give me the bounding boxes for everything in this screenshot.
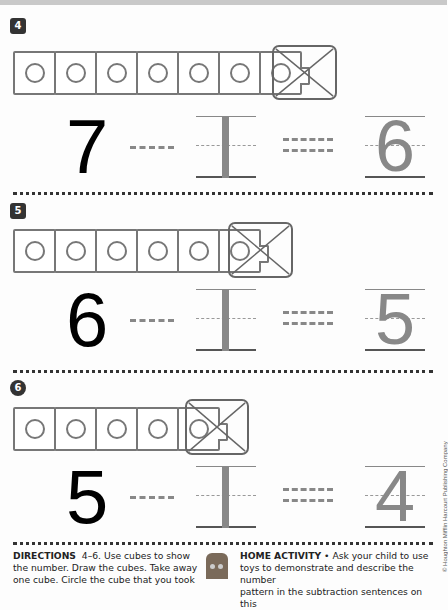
problem-5-badge: 5 — [10, 203, 26, 219]
difference-write-box[interactable]: 6 — [365, 116, 425, 178]
directions-range: 4–6. — [82, 550, 101, 561]
subtrahend-write-box[interactable] — [196, 116, 256, 178]
cube-hole-icon — [107, 63, 127, 83]
cube-hole-icon — [66, 63, 86, 83]
cube-hole-icon — [189, 241, 209, 261]
directions-line-1: Use cubes to show — [104, 550, 190, 561]
cube-hole-icon — [66, 241, 86, 261]
equals-sign — [283, 488, 333, 502]
home-line-3: pattern in the subtraction sentences on … — [240, 586, 422, 609]
problem-5-equation: 6 5 — [0, 287, 447, 353]
circled-cube-cross-out — [272, 45, 337, 100]
copyright-notice: © Houghton Mifflin Harcourt Publishing C… — [436, 440, 446, 578]
traced-subtrahend-1 — [222, 289, 229, 351]
cube — [136, 51, 179, 95]
home-line-2: toys to demonstrate and describe the num… — [240, 562, 414, 585]
problem-4-equation: 7 6 — [0, 114, 447, 180]
circled-cube-cross-out — [185, 399, 249, 455]
problem-6-badge: 6 — [10, 380, 26, 396]
cube — [177, 229, 220, 273]
minus-sign — [130, 146, 174, 149]
minus-sign — [130, 496, 174, 499]
problem-4-cube-train — [13, 51, 300, 95]
subtrahend-write-box[interactable] — [196, 289, 256, 351]
cube — [218, 51, 261, 95]
minuend: 5 — [66, 464, 108, 530]
cube — [13, 229, 56, 273]
cube — [54, 229, 97, 273]
circled-cube-cross-out — [228, 222, 293, 278]
copyright-text: © Houghton Mifflin Harcourt Publishing C… — [442, 434, 448, 572]
home-activity-label: HOME ACTIVITY — [240, 550, 321, 561]
mascot-eye — [210, 564, 215, 569]
cube-hole-icon — [25, 419, 45, 439]
directions-line-3: one cube. Circle the cube that you took — [13, 574, 195, 585]
minus-sign — [130, 319, 174, 322]
cube — [13, 407, 56, 451]
traced-difference: 6 — [365, 110, 425, 182]
section-divider — [13, 192, 433, 195]
section-divider — [13, 370, 433, 373]
equals-sign — [283, 138, 333, 152]
difference-write-box[interactable]: 4 — [365, 466, 425, 528]
mascot-eye — [218, 564, 223, 569]
cube — [13, 51, 56, 95]
cube — [136, 229, 179, 273]
cube-hole-icon — [25, 63, 45, 83]
cube-hole-icon — [25, 241, 45, 261]
traced-difference: 5 — [365, 283, 425, 355]
home-activity-text: HOME ACTIVITY • Ask your child to use to… — [240, 550, 440, 610]
difference-write-box[interactable]: 5 — [365, 289, 425, 351]
cube — [54, 407, 97, 451]
directions-line-2: the number. Draw the cubes. Take away — [13, 562, 197, 573]
minuend: 7 — [66, 114, 108, 180]
cube — [95, 407, 138, 451]
cube-hole-icon — [107, 419, 127, 439]
cube-hole-icon — [148, 241, 168, 261]
cube-hole-icon — [148, 63, 168, 83]
section-divider — [13, 542, 433, 545]
cube — [177, 51, 220, 95]
home-line-1: Ask your child to use — [332, 550, 428, 561]
cross-out-icon — [230, 224, 291, 276]
cube — [136, 407, 179, 451]
problem-6-equation: 5 4 — [0, 464, 447, 530]
subtrahend-write-box[interactable] — [196, 466, 256, 528]
cube-hole-icon — [148, 419, 168, 439]
traced-subtrahend-1 — [222, 466, 229, 528]
cube-hole-icon — [66, 419, 86, 439]
cube-hole-icon — [189, 63, 209, 83]
page-top-edge — [0, 0, 447, 5]
directions-text: DIRECTIONS 4–6. Use cubes to show the nu… — [13, 550, 203, 586]
bullet: • — [324, 550, 329, 561]
cube-hole-icon — [107, 241, 127, 261]
cube-hole-icon — [230, 63, 250, 83]
equals-sign — [283, 311, 333, 325]
cube — [95, 51, 138, 95]
directions-label: DIRECTIONS — [13, 550, 76, 561]
mascot-house-icon — [206, 553, 228, 579]
minuend: 6 — [66, 287, 108, 353]
traced-difference: 4 — [365, 460, 425, 532]
cross-out-icon — [274, 47, 335, 98]
problem-5-cube-train — [13, 229, 259, 273]
traced-subtrahend-1 — [222, 116, 229, 178]
cube — [95, 229, 138, 273]
cross-out-icon — [187, 401, 247, 453]
cube — [54, 51, 97, 95]
problem-4-badge: 4 — [10, 18, 26, 34]
